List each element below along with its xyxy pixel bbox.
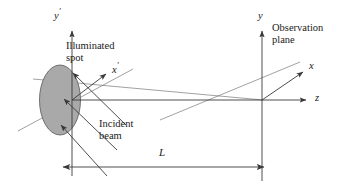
y-prime-mark: ′ <box>59 6 61 16</box>
z-axis-label: z <box>315 92 319 104</box>
x-axis-label: x <box>309 60 314 72</box>
illuminated-spot-label-line2: spot <box>66 52 114 64</box>
incident-beam-label: Incident beam <box>99 118 133 142</box>
y-axis-label: y <box>258 10 263 22</box>
scatter-ray-to-observation <box>160 62 300 120</box>
observation-plane-label-line1: Observation <box>272 22 323 34</box>
incident-beam-label-line1: Incident <box>99 118 133 130</box>
x-prime-mark: ′ <box>117 60 119 70</box>
incident-beam-label-line2: beam <box>99 130 133 142</box>
x-axis-line <box>262 72 303 100</box>
illuminated-spot-label-line1: Illuminated <box>66 40 114 52</box>
observation-plane-label-line2: plane <box>272 34 323 46</box>
figure-container: y′ x′ y x z Illuminated spot Incident be… <box>0 0 340 182</box>
illuminated-spot-label: Illuminated spot <box>66 40 114 64</box>
observation-plane-label: Observation plane <box>272 22 323 46</box>
distance-dimension-label: L <box>159 146 165 158</box>
y-prime-axis-label: y′ <box>54 6 61 21</box>
